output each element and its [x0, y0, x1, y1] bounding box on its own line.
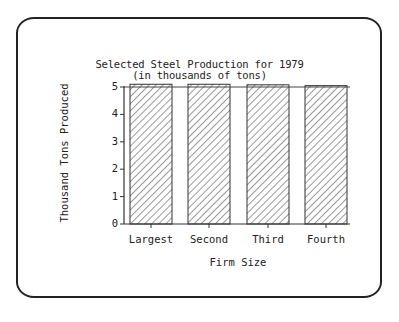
- bar-third: [247, 85, 289, 224]
- y-tick-label: 0: [106, 217, 118, 229]
- y-tick-label: 4: [106, 107, 118, 119]
- bar-largest: [130, 84, 172, 224]
- y-tick-label: 1: [106, 190, 118, 202]
- x-tick-label: Third: [238, 233, 298, 245]
- x-tick-label: Largest: [121, 233, 181, 245]
- bar-plot-area: [0, 0, 399, 322]
- y-tick-label: 5: [106, 80, 118, 92]
- y-tick-label: 3: [106, 135, 118, 147]
- x-tick-label: Fourth: [296, 233, 356, 245]
- y-tick-label: 2: [106, 162, 118, 174]
- x-axis-label: Firm Size: [0, 256, 399, 268]
- bar-fourth: [305, 86, 347, 224]
- bar-second: [188, 84, 230, 224]
- x-tick-label: Second: [179, 233, 239, 245]
